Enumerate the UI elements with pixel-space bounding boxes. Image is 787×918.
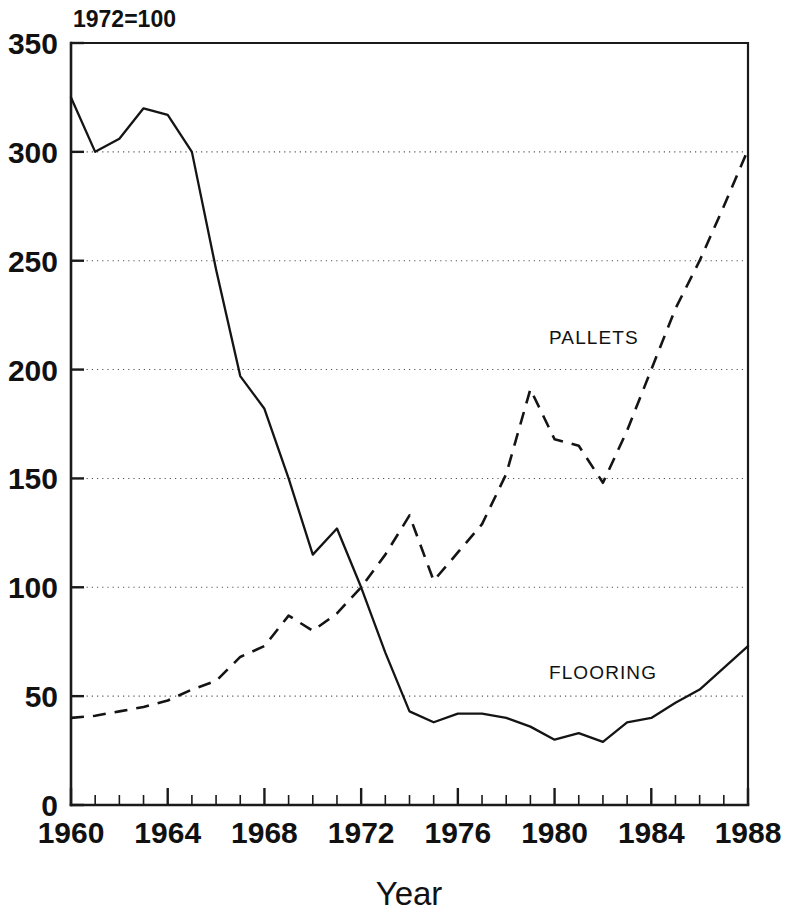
y-tick-label-300: 300 <box>8 136 58 169</box>
plot-frame <box>71 43 748 805</box>
x-tick-label-1988: 1988 <box>715 816 782 849</box>
chart-container: 050100150200250300350 196019641968197219… <box>0 0 787 918</box>
x-tick-label-1972: 1972 <box>328 816 395 849</box>
line-chart: 050100150200250300350 196019641968197219… <box>0 0 787 918</box>
x-tick-label-1976: 1976 <box>424 816 491 849</box>
x-tick-label-1968: 1968 <box>231 816 298 849</box>
x-axis-ticks: 19601964196819721976198019841988 <box>38 788 782 849</box>
x-tick-label-1984: 1984 <box>618 816 685 849</box>
x-tick-label-1960: 1960 <box>38 816 105 849</box>
x-axis-title: Year <box>376 875 443 912</box>
y-axis-ticks: 050100150200250300350 <box>8 27 84 822</box>
y-tick-label-150: 150 <box>8 462 58 495</box>
y-tick-label-250: 250 <box>8 245 58 278</box>
series-line-flooring <box>71 97 748 741</box>
index-base-note: 1972=100 <box>73 6 176 32</box>
x-tick-label-1980: 1980 <box>521 816 588 849</box>
y-tick-label-350: 350 <box>8 27 58 60</box>
gridlines <box>71 152 748 696</box>
x-tick-label-1964: 1964 <box>134 816 201 849</box>
y-tick-label-200: 200 <box>8 354 58 387</box>
series-line-pallets <box>71 150 748 718</box>
y-tick-label-50: 50 <box>25 680 58 713</box>
series-label-flooring: FLOORING <box>549 662 657 683</box>
series-label-pallets: PALLETS <box>549 327 639 348</box>
y-tick-label-100: 100 <box>8 571 58 604</box>
